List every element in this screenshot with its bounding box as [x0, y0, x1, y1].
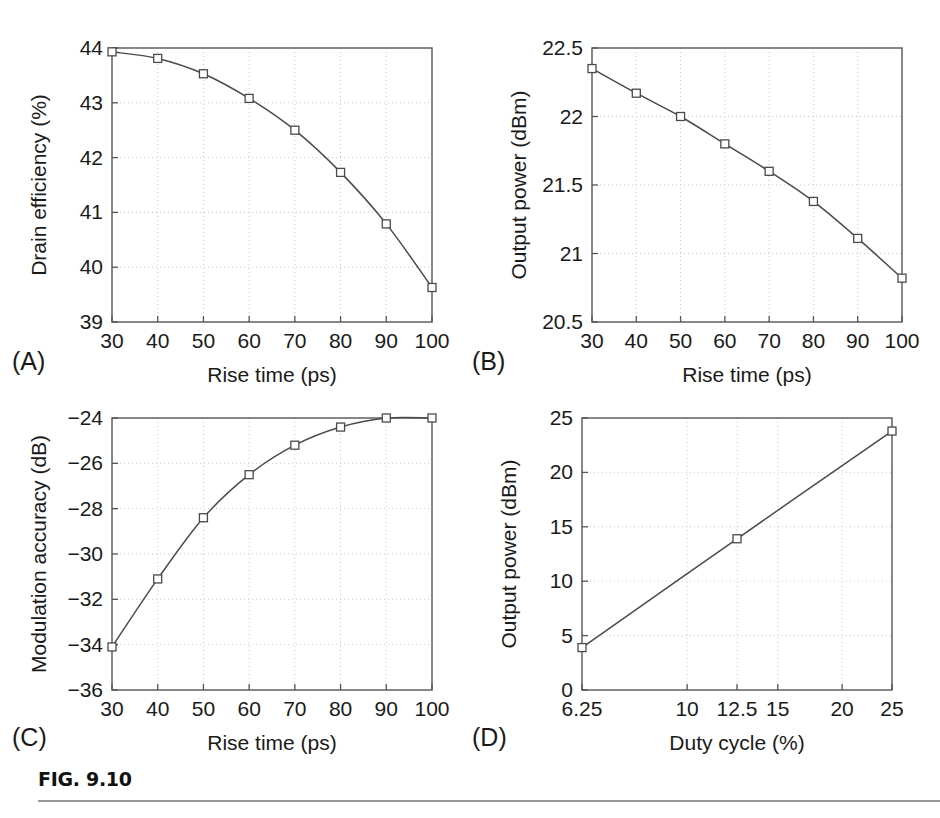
- x-tick-label: 50: [669, 329, 692, 352]
- data-series-line: [112, 52, 432, 288]
- x-axis-title: Duty cycle (%): [669, 731, 804, 754]
- y-tick-label: 22.5: [542, 36, 583, 59]
- y-tick-label: −28: [67, 497, 103, 520]
- data-point-marker: [199, 70, 207, 78]
- y-tick-label: −34: [67, 633, 103, 656]
- chart-plot-c: −36−34−32−30−28−26−2430405060708090100Ri…: [0, 382, 470, 762]
- data-point-marker: [108, 643, 116, 651]
- x-tick-label: 80: [802, 329, 825, 352]
- x-tick-label: 30: [100, 697, 123, 720]
- data-point-marker: [108, 48, 116, 56]
- y-tick-label: −24: [67, 406, 103, 429]
- x-tick-label: 90: [375, 329, 398, 352]
- chart-panel-c: −36−34−32−30−28−26−2430405060708090100Ri…: [0, 382, 470, 762]
- y-tick-label: 5: [561, 624, 573, 647]
- chart-panel-d: 05101520256.251012.5152025Duty cycle (%)…: [470, 382, 940, 762]
- chart-panel-b: 20.52121.52222.530405060708090100Rise ti…: [470, 0, 940, 400]
- panel-letter-d: (D): [472, 723, 507, 752]
- panel-letter-c: (C): [12, 723, 47, 752]
- x-tick-label: 40: [625, 329, 648, 352]
- data-series-line: [592, 69, 902, 279]
- y-tick-label: 40: [80, 255, 103, 278]
- y-tick-label: 10: [550, 569, 573, 592]
- x-tick-label: 15: [766, 697, 789, 720]
- chart-plot-a: 39404142434430405060708090100Rise time (…: [0, 0, 470, 400]
- y-tick-label: −32: [67, 587, 103, 610]
- data-point-marker: [809, 197, 817, 205]
- data-point-marker: [721, 140, 729, 148]
- y-axis-title: Drain efficiency (%): [27, 94, 50, 276]
- data-point-marker: [578, 644, 586, 652]
- data-point-marker: [677, 113, 685, 121]
- data-point-marker: [588, 65, 596, 73]
- data-point-marker: [888, 427, 896, 435]
- data-point-marker: [337, 168, 345, 176]
- data-point-marker: [765, 167, 773, 175]
- x-tick-label: 30: [100, 329, 123, 352]
- chart-plot-d: 05101520256.251012.5152025Duty cycle (%)…: [470, 382, 940, 762]
- y-tick-label: 20: [550, 460, 573, 483]
- data-point-marker: [428, 283, 436, 291]
- x-tick-label: 50: [192, 697, 215, 720]
- x-tick-label: 80: [329, 329, 352, 352]
- chart-panel-a: 39404142434430405060708090100Rise time (…: [0, 0, 470, 400]
- data-point-marker: [733, 535, 741, 543]
- x-tick-label: 6.25: [562, 697, 603, 720]
- x-tick-label: 60: [237, 329, 260, 352]
- x-tick-label: 70: [283, 329, 306, 352]
- y-tick-label: 15: [550, 515, 573, 538]
- data-point-marker: [632, 89, 640, 97]
- data-point-marker: [382, 414, 390, 422]
- y-axis-title: Output power (dBm): [497, 459, 520, 648]
- x-tick-label: 40: [146, 329, 169, 352]
- data-point-marker: [245, 94, 253, 102]
- panel-letter-b: (B): [472, 347, 505, 376]
- y-tick-label: 43: [80, 91, 103, 114]
- data-series-line: [112, 417, 432, 647]
- x-tick-label: 12.5: [717, 697, 758, 720]
- y-axis-title: Modulation accuracy (dB): [27, 435, 50, 673]
- y-tick-label: −30: [67, 542, 103, 565]
- y-axis-title: Output power (dBm): [507, 90, 530, 279]
- y-tick-label: 21.5: [542, 173, 583, 196]
- x-tick-label: 70: [283, 697, 306, 720]
- figure-caption-label: FIG. 9.10: [38, 768, 132, 790]
- y-tick-label: 22: [560, 105, 583, 128]
- x-tick-label: 100: [414, 697, 449, 720]
- data-point-marker: [428, 414, 436, 422]
- x-tick-label: 20: [830, 697, 853, 720]
- panel-letter-a: (A): [12, 347, 45, 376]
- y-tick-label: 20.5: [542, 310, 583, 333]
- caption-divider: [38, 800, 940, 802]
- data-point-marker: [291, 126, 299, 134]
- x-tick-label: 50: [192, 329, 215, 352]
- y-tick-label: −26: [67, 451, 103, 474]
- x-tick-label: 30: [580, 329, 603, 352]
- x-tick-label: 60: [713, 329, 736, 352]
- data-point-marker: [291, 441, 299, 449]
- figure-root: 39404142434430405060708090100Rise time (…: [0, 0, 940, 818]
- y-tick-label: 25: [550, 406, 573, 429]
- y-tick-label: 21: [560, 242, 583, 265]
- x-tick-label: 25: [880, 697, 903, 720]
- data-point-marker: [898, 274, 906, 282]
- data-point-marker: [154, 575, 162, 583]
- x-tick-label: 100: [414, 329, 449, 352]
- data-point-marker: [245, 471, 253, 479]
- y-tick-label: 42: [80, 146, 103, 169]
- x-tick-label: 70: [757, 329, 780, 352]
- x-tick-label: 80: [329, 697, 352, 720]
- y-tick-label: −36: [67, 678, 103, 701]
- x-tick-label: 90: [375, 697, 398, 720]
- chart-plot-b: 20.52121.52222.530405060708090100Rise ti…: [470, 0, 940, 400]
- data-point-marker: [854, 234, 862, 242]
- x-tick-label: 40: [146, 697, 169, 720]
- y-tick-label: 44: [80, 36, 104, 59]
- data-point-marker: [154, 54, 162, 62]
- data-point-marker: [199, 514, 207, 522]
- data-point-marker: [337, 423, 345, 431]
- x-tick-label: 100: [884, 329, 919, 352]
- x-tick-label: 90: [846, 329, 869, 352]
- data-point-marker: [382, 220, 390, 228]
- y-tick-label: 41: [80, 200, 103, 223]
